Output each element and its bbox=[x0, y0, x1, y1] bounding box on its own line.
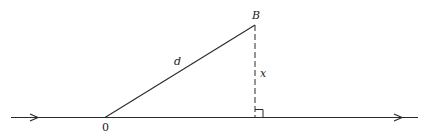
label-x: x bbox=[260, 68, 266, 79]
segment-d bbox=[105, 25, 255, 118]
label-point-b: B bbox=[252, 10, 260, 21]
label-d: d bbox=[174, 56, 181, 67]
label-origin: 0 bbox=[102, 122, 109, 133]
diagram-svg bbox=[0, 0, 428, 136]
right-angle-marker-icon bbox=[255, 110, 263, 118]
diagram-canvas: B 0 d x bbox=[0, 0, 428, 136]
